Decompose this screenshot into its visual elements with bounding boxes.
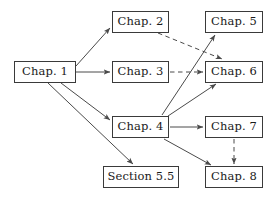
node-chap7-label: Chap. 7 (211, 121, 257, 134)
node-chap1[interactable]: Chap. 1 (14, 61, 76, 83)
node-chap6[interactable]: Chap. 6 (205, 61, 263, 83)
node-section-5-5[interactable]: Section 5.5 (103, 166, 179, 188)
node-chap3-label: Chap. 3 (118, 66, 164, 79)
node-chap8-label: Chap. 8 (211, 171, 257, 184)
node-chap5-label: Chap. 5 (211, 16, 257, 29)
node-chap7[interactable]: Chap. 7 (205, 116, 263, 138)
edge-chap1-to-chap2 (76, 28, 110, 66)
node-chap2-label: Chap. 2 (118, 16, 164, 29)
edge-chap2-to-chap6 (158, 33, 222, 59)
node-section-5-5-label: Section 5.5 (108, 171, 175, 184)
node-chap1-label: Chap. 1 (22, 66, 68, 79)
node-chap4-label: Chap. 4 (118, 121, 164, 134)
node-chap6-label: Chap. 6 (211, 66, 257, 79)
edge-chap1-to-chap4 (61, 83, 110, 120)
diagram-canvas: Chap. 1 Chap. 2 Chap. 3 Chap. 4 Chap. 5 … (0, 0, 278, 198)
node-chap8[interactable]: Chap. 8 (205, 166, 263, 188)
node-chap3[interactable]: Chap. 3 (112, 61, 169, 83)
edge-chap4-to-chap6 (168, 84, 216, 116)
node-chap4[interactable]: Chap. 4 (112, 116, 169, 138)
node-chap2[interactable]: Chap. 2 (112, 11, 169, 33)
edge-chap4-to-chap8 (164, 139, 211, 165)
edge-group (48, 28, 234, 165)
node-chap5[interactable]: Chap. 5 (205, 11, 263, 33)
